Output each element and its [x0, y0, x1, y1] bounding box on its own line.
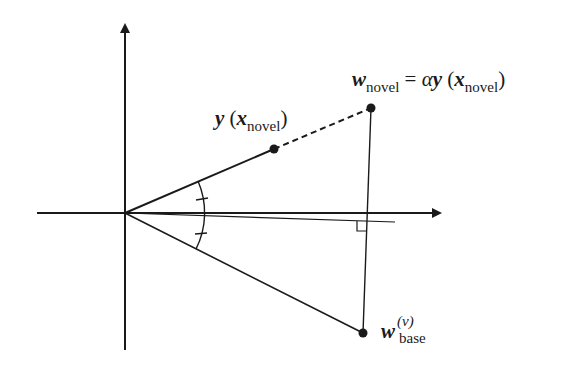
- point-y-x-novel: [270, 145, 279, 154]
- w-base-vector: [125, 213, 363, 333]
- angle-tick-lower: [195, 233, 207, 234]
- vector-diagram: wnovel = αy (xnovel) y (xnovel) w(ν) bas…: [0, 0, 567, 369]
- angle-tick-upper: [196, 198, 208, 200]
- projection-line: [125, 213, 395, 222]
- point-w-novel: [367, 104, 376, 113]
- label-w-base-sub: base: [399, 330, 426, 346]
- point-w-base: [359, 329, 368, 338]
- dashed-extension: [274, 108, 371, 149]
- y-vector: [125, 149, 274, 213]
- right-angle-marker: [357, 221, 367, 231]
- label-w-novel-equation: wnovel = αy (xnovel): [352, 67, 505, 95]
- label-y-x-novel: y (xnovel): [212, 106, 287, 134]
